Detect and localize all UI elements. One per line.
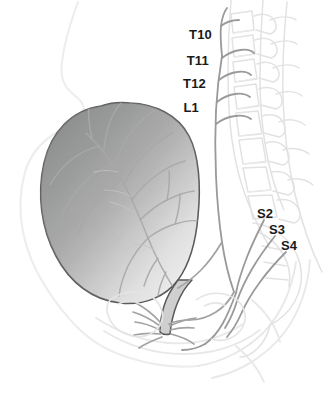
label-s4: S4 bbox=[281, 239, 297, 252]
anatomical-illustration: T10 T11 T12 L1 S2 S3 S4 bbox=[0, 0, 331, 413]
urinary-bladder bbox=[41, 96, 200, 304]
sympathetic-nerve-chain bbox=[215, 8, 254, 292]
label-t10: T10 bbox=[189, 28, 212, 41]
label-t11: T11 bbox=[187, 54, 209, 67]
vertebral-column bbox=[228, 0, 322, 357]
anatomy-diagram bbox=[0, 0, 331, 413]
label-t12: T12 bbox=[183, 77, 206, 90]
label-s3: S3 bbox=[269, 223, 285, 236]
label-l1: L1 bbox=[183, 101, 199, 114]
label-s2: S2 bbox=[257, 207, 273, 220]
